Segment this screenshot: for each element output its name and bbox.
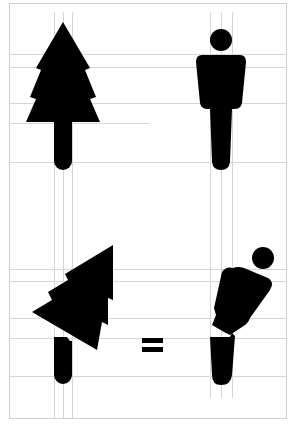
diagram-svg bbox=[0, 0, 294, 425]
diagram-canvas: = bbox=[0, 0, 294, 425]
